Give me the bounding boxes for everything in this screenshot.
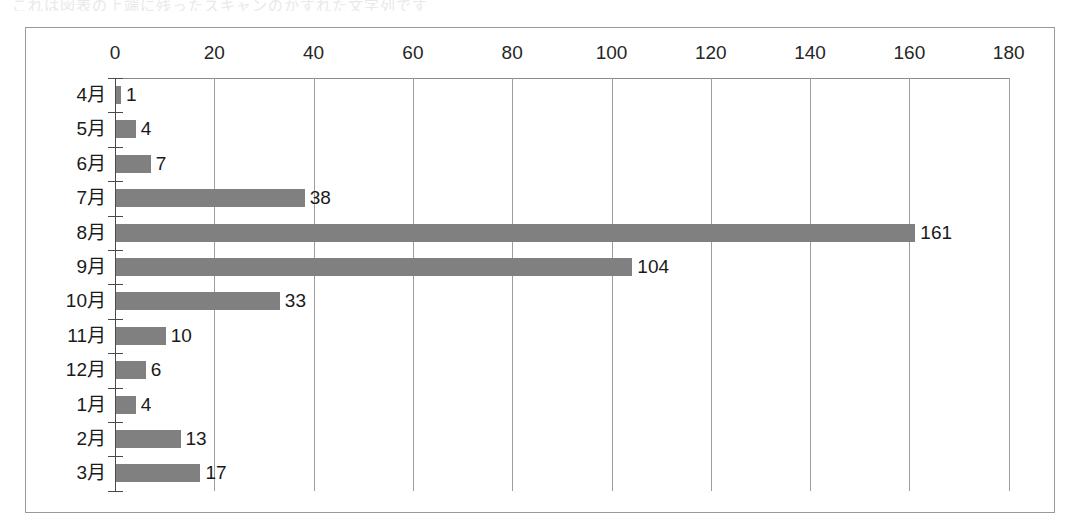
bar-12月[interactable] [116, 361, 146, 379]
bar-value-label-1月: 4 [136, 396, 152, 414]
y-tick-label-4月: 4月 [26, 78, 106, 112]
x-tick-label-120: 120 [676, 42, 746, 64]
bar-chart-plot-area: 0204060801001201401601804月15月46月77月388月1… [26, 28, 1056, 514]
x-tick-label-160: 160 [874, 42, 944, 64]
bar-row: 8月161 [26, 216, 1056, 250]
y-tick-label-6月: 6月 [26, 147, 106, 181]
y-tick-label-3月: 3月 [26, 456, 106, 490]
y-tick-label-12月: 12月 [26, 353, 106, 387]
bar-3月[interactable] [116, 464, 200, 482]
bar-value-label-9月: 104 [632, 258, 669, 276]
x-tick-label-140: 140 [775, 42, 845, 64]
y-tick-label-10月: 10月 [26, 284, 106, 318]
chart-frame: 0204060801001201401601804月15月46月77月388月1… [25, 27, 1055, 513]
y-tick-label-9月: 9月 [26, 250, 106, 284]
bar-2月[interactable] [116, 430, 181, 448]
y-axis-tick [108, 422, 123, 423]
y-tick-label-8月: 8月 [26, 216, 106, 250]
bar-value-label-5月: 4 [136, 120, 152, 138]
scan-artifact-text: これは図表の上端に残ったスキャンのかすれた文字列です [12, 0, 1062, 11]
bar-value-label-12月: 6 [146, 361, 162, 379]
y-axis-tick [108, 112, 123, 113]
y-tick-label-1月: 1月 [26, 388, 106, 422]
x-tick-label-60: 60 [378, 42, 448, 64]
bar-9月[interactable] [116, 258, 632, 276]
y-axis-tick [108, 78, 123, 79]
y-axis-tick [108, 491, 123, 492]
x-tick-label-20: 20 [179, 42, 249, 64]
x-tick-label-100: 100 [577, 42, 647, 64]
bar-row: 12月6 [26, 353, 1056, 387]
bar-value-label-8月: 161 [915, 224, 952, 242]
bar-10月[interactable] [116, 292, 280, 310]
y-axis-tick [108, 147, 123, 148]
x-tick-label-80: 80 [477, 42, 547, 64]
bar-row: 1月4 [26, 388, 1056, 422]
y-axis-tick [108, 216, 123, 217]
bar-row: 3月17 [26, 456, 1056, 490]
bar-value-label-4月: 1 [121, 86, 137, 104]
bar-row: 2月13 [26, 422, 1056, 456]
y-axis-tick [108, 284, 123, 285]
bar-row: 9月104 [26, 250, 1056, 284]
bar-6月[interactable] [116, 155, 151, 173]
bar-row: 11月10 [26, 319, 1056, 353]
bar-7月[interactable] [116, 189, 305, 207]
bar-value-label-10月: 33 [280, 292, 306, 310]
bar-value-label-6月: 7 [151, 155, 167, 173]
x-tick-label-180: 180 [974, 42, 1044, 64]
y-tick-label-7月: 7月 [26, 181, 106, 215]
y-axis-tick [108, 250, 123, 251]
y-axis-tick [108, 181, 123, 182]
bar-row: 7月38 [26, 181, 1056, 215]
bar-row: 4月1 [26, 78, 1056, 112]
bar-value-label-7月: 38 [305, 189, 331, 207]
y-tick-label-11月: 11月 [26, 319, 106, 353]
bar-1月[interactable] [116, 396, 136, 414]
bar-row: 10月33 [26, 284, 1056, 318]
y-axis-tick [108, 319, 123, 320]
bar-value-label-3月: 17 [200, 464, 226, 482]
bar-value-label-11月: 10 [166, 327, 192, 345]
bar-value-label-2月: 13 [181, 430, 207, 448]
x-tick-label-40: 40 [279, 42, 349, 64]
y-axis-tick [108, 353, 123, 354]
x-tick-label-0: 0 [80, 42, 150, 64]
bar-row: 5月4 [26, 112, 1056, 146]
y-axis-tick [108, 456, 123, 457]
bar-8月[interactable] [116, 224, 915, 242]
bar-row: 6月7 [26, 147, 1056, 181]
y-tick-label-2月: 2月 [26, 422, 106, 456]
y-tick-label-5月: 5月 [26, 112, 106, 146]
bar-11月[interactable] [116, 327, 166, 345]
y-axis-tick [108, 388, 123, 389]
bar-5月[interactable] [116, 120, 136, 138]
